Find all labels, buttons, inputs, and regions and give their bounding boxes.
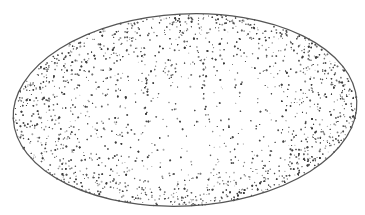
stippled-ellipse-drawing — [0, 0, 365, 215]
ellipse-outline — [8, 5, 362, 215]
figure — [0, 0, 365, 215]
stipple-dots — [8, 5, 363, 215]
